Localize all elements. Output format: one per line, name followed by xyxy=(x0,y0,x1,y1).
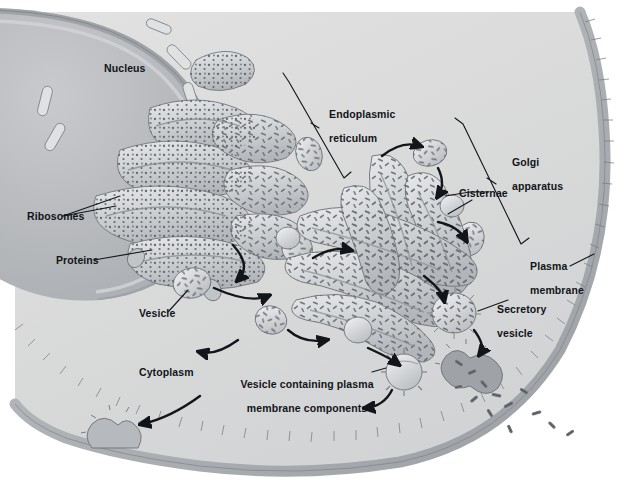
cell-diagram-figure: Nucleus Ribosomes Proteins Vesicle Cytop… xyxy=(0,0,629,500)
label-golgi-line2: apparatus xyxy=(512,180,563,192)
label-golgi-apparatus: Golgi apparatus xyxy=(506,144,563,192)
label-plasma-line1: Plasma xyxy=(530,260,567,272)
label-vpc-line2: membrane components xyxy=(247,402,367,414)
label-nucleus: Nucleus xyxy=(104,62,146,74)
label-golgi-line1: Golgi xyxy=(512,156,539,168)
label-vpc-line1: Vesicle containing plasma xyxy=(240,378,373,390)
label-er-line2: reticulum xyxy=(329,132,377,144)
label-vesicle: Vesicle xyxy=(139,307,175,319)
label-secretory-line2: vesicle xyxy=(497,327,533,339)
label-endoplasmic-reticulum: Endoplasmic reticulum xyxy=(323,96,396,144)
label-plasma-membrane: Plasma membrane xyxy=(524,248,584,296)
label-cytoplasm: Cytoplasm xyxy=(139,366,194,378)
label-secretory-line1: Secretory xyxy=(497,303,546,315)
label-er-line1: Endoplasmic xyxy=(329,108,395,120)
label-ribosomes: Ribosomes xyxy=(27,210,85,222)
label-secretory-vesicle: Secretory vesicle xyxy=(491,291,546,339)
label-cisternae: Cisternae xyxy=(459,187,508,199)
label-vesicle-plasma-components: Vesicle containing plasma membrane compo… xyxy=(228,366,380,414)
label-proteins: Proteins xyxy=(56,254,99,266)
